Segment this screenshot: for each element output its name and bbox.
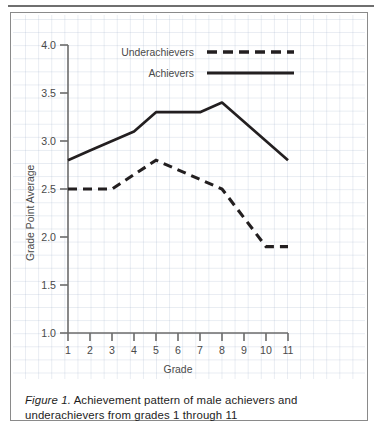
x-tick-label-2: 2 [87,344,93,356]
y-tick-label-4: 2.5 [41,183,56,195]
chart-plot-area: 1.0 1.5 2.0 2.5 3.0 3.5 4.0 Grade Point … [11,13,369,383]
x-tick-label-3: 3 [109,344,115,356]
y-tick-label-1: 1.0 [41,327,56,339]
y-axis-title: Grade Point Average [25,165,36,261]
series-line-underachievers [68,160,288,246]
x-tick-label-7: 7 [197,344,203,356]
chart-legend: Underachievers Achievers [121,47,294,79]
y-tick-label-6: 3.5 [41,87,56,99]
x-tick-label-9: 9 [241,344,247,356]
y-axis-ticks [60,45,68,333]
series-line-achievers [68,103,288,161]
x-axis-title: Grade [164,364,193,375]
figure-border-box: 1.0 1.5 2.0 2.5 3.0 3.5 4.0 Grade Point … [10,12,368,421]
legend-label-achievers: Achievers [148,68,194,79]
x-tick-label-8: 8 [219,344,225,356]
figure-caption: Figure 1. Achievement pattern of male ac… [25,393,343,423]
x-tick-label-10: 10 [260,344,272,356]
x-axis-ticks [68,333,288,341]
y-tick-label-2: 1.5 [41,279,56,291]
figure-caption-number: Figure 1. [25,394,71,406]
legend-label-underachievers: Underachievers [121,47,194,58]
y-tick-label-3: 2.0 [41,231,56,243]
x-tick-label-4: 4 [131,344,137,356]
x-tick-label-5: 5 [153,344,159,356]
x-tick-label-11: 11 [283,344,294,356]
y-tick-label-5: 3.0 [41,135,56,147]
top-divider-rule [8,5,374,7]
y-tick-label-7: 4.0 [41,39,56,51]
x-tick-label-1: 1 [65,344,71,356]
figure-page: 1.0 1.5 2.0 2.5 3.0 3.5 4.0 Grade Point … [0,0,382,433]
x-tick-label-6: 6 [175,344,181,356]
